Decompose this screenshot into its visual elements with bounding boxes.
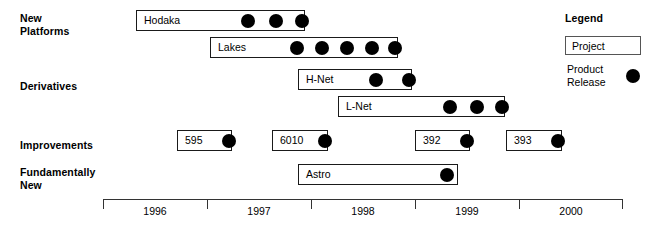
legend-label-project: Project bbox=[566, 40, 605, 52]
legend-product-release-dot-icon bbox=[626, 69, 640, 83]
product-release-dot[interactable] bbox=[269, 14, 283, 28]
product-release-dot[interactable] bbox=[340, 41, 354, 55]
axis-tick-label-1999: 1999 bbox=[415, 205, 519, 217]
project-bar-label: 393 bbox=[507, 135, 532, 146]
product-release-dot[interactable] bbox=[315, 41, 329, 55]
product-release-dot[interactable] bbox=[241, 14, 255, 28]
axis-tick-label-2000: 2000 bbox=[519, 205, 623, 217]
product-release-dot[interactable] bbox=[365, 41, 379, 55]
product-release-dot[interactable] bbox=[222, 134, 236, 148]
timeline-axis-line bbox=[103, 199, 623, 200]
product-release-dot[interactable] bbox=[295, 14, 309, 28]
product-release-dot[interactable] bbox=[551, 134, 565, 148]
product-release-dot[interactable] bbox=[388, 41, 402, 55]
product-release-dot[interactable] bbox=[402, 73, 416, 87]
row-label-new-platforms: New Platforms bbox=[20, 12, 69, 37]
project-bar-label: 392 bbox=[416, 135, 441, 146]
product-release-dot[interactable] bbox=[443, 100, 457, 114]
project-bar-label: Hodaka bbox=[137, 15, 180, 26]
legend-label-product-release: Product Release bbox=[567, 63, 606, 88]
product-release-dot[interactable] bbox=[470, 100, 484, 114]
project-bar-astro[interactable]: Astro bbox=[298, 164, 458, 185]
row-label-derivatives: Derivatives bbox=[20, 80, 77, 93]
product-roadmap-timeline-chart: New Platforms Derivatives Improvements F… bbox=[0, 0, 655, 228]
axis-tick-label-1996: 1996 bbox=[103, 205, 207, 217]
legend-swatch-project: Project bbox=[565, 36, 641, 55]
legend-title: Legend bbox=[565, 12, 603, 24]
product-release-dot[interactable] bbox=[440, 168, 454, 182]
project-bar-label: 6010 bbox=[273, 135, 303, 146]
project-bar-label: Astro bbox=[299, 169, 331, 180]
row-label-improvements: Improvements bbox=[20, 139, 93, 152]
product-release-dot[interactable] bbox=[460, 134, 474, 148]
project-bar-label: L-Net bbox=[339, 101, 372, 112]
product-release-dot[interactable] bbox=[318, 134, 332, 148]
project-bar-hnet[interactable]: H-Net bbox=[298, 69, 412, 90]
axis-tick-label-1997: 1997 bbox=[207, 205, 311, 217]
product-release-dot[interactable] bbox=[369, 73, 383, 87]
row-label-fundamentally-new: Fundamentally New bbox=[20, 166, 95, 191]
axis-tick-label-1998: 1998 bbox=[311, 205, 415, 217]
product-release-dot[interactable] bbox=[495, 100, 509, 114]
product-release-dot[interactable] bbox=[290, 41, 304, 55]
project-bar-label: 595 bbox=[178, 135, 203, 146]
project-bar-label: Lakes bbox=[211, 42, 246, 53]
project-bar-label: H-Net bbox=[299, 74, 333, 85]
